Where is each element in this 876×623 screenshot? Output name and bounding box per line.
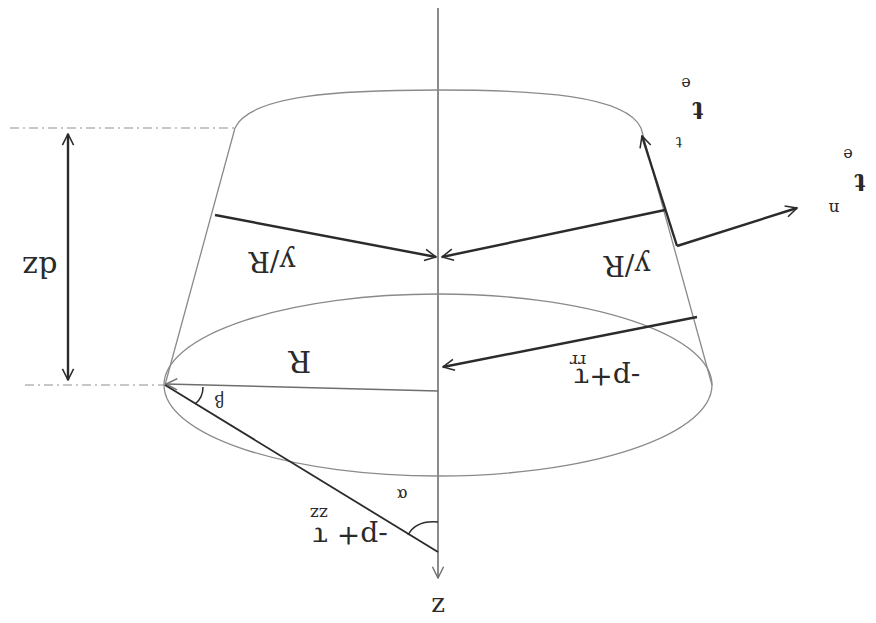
normal-vector-sup: e — [843, 145, 852, 164]
radius-label: R — [287, 344, 311, 379]
beta-angle-arc — [195, 387, 203, 404]
radial-stress-subscript: rr — [569, 351, 586, 371]
normal-vector-label: t — [854, 168, 865, 197]
axial-stress-subscript: zz — [310, 504, 328, 524]
tangent-vector-sup: e — [681, 74, 690, 93]
tangent-vector-arrow — [642, 136, 677, 246]
generatrix-line — [165, 385, 438, 552]
tangent-vector-label: t — [692, 96, 703, 125]
radius-arrow — [166, 384, 438, 391]
tangent-vector-sub: t — [676, 133, 682, 151]
beta-label: β — [214, 391, 224, 411]
normal-vector-arrow — [677, 208, 797, 246]
hoop-label-left: y/R — [248, 245, 296, 278]
alpha-label: α — [396, 485, 407, 504]
hoop-arrow-left — [215, 215, 436, 257]
cone-side-left — [165, 128, 235, 385]
normal-vector-sub: n — [828, 199, 839, 219]
dz-label: dz — [22, 250, 57, 285]
hoop-label-right: y/R — [603, 249, 651, 282]
cone-stress-diagram: z dz R y/R y/R -p+τ rr -p+ τ zz α β t e … — [0, 0, 876, 623]
z-axis-label: z — [431, 588, 445, 618]
alpha-angle-arc — [408, 522, 438, 535]
